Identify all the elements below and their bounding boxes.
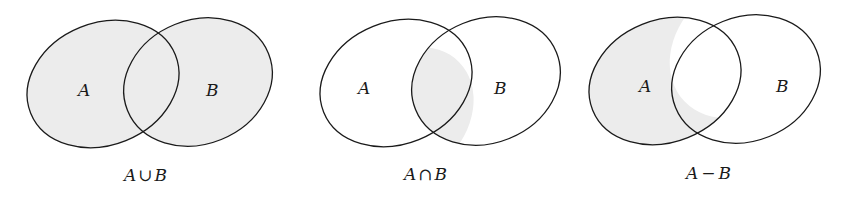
caption-intersection: A∩B [402, 164, 447, 184]
venn-diagrams: A B A∪B A B A∩B A B A−B [0, 0, 866, 197]
shade-intersection [392, 0, 579, 167]
set-b-label: B [493, 78, 507, 98]
set-a-label: A [637, 76, 651, 96]
set-a-label: A [76, 80, 90, 100]
venn-union: A B A∪B [8, 0, 292, 185]
set-b-label: B [775, 76, 789, 96]
caption-difference: A−B [684, 163, 731, 183]
venn-difference: A B A−B [570, 0, 840, 183]
venn-intersection: A B A∩B [301, 0, 580, 184]
shade-a-minus-b [570, 0, 760, 167]
caption-union: A∪B [122, 165, 167, 185]
set-a-label: A [356, 78, 370, 98]
set-b-label: B [205, 80, 219, 100]
